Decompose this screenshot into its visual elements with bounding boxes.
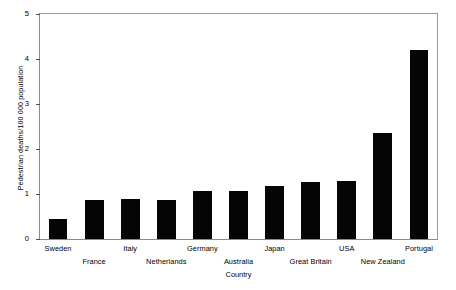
- bar: [373, 133, 392, 239]
- y-axis-tick-label: 4: [25, 55, 29, 63]
- x-axis-tick-label: France: [82, 258, 105, 265]
- plot-inner: 012345: [40, 14, 437, 239]
- y-axis-tick: 5: [36, 14, 40, 15]
- bar: [229, 191, 248, 239]
- x-axis-tick-label: Great Britain: [290, 258, 332, 265]
- bar: [49, 219, 68, 239]
- bar: [410, 50, 429, 239]
- x-axis-tick-label: Netherlands: [146, 258, 186, 265]
- y-axis-tick: 1: [36, 194, 40, 195]
- bar: [85, 200, 104, 239]
- x-axis-tick-label: Australia: [224, 258, 253, 265]
- y-axis-tick-label: 1: [25, 190, 29, 198]
- y-axis-tick: 4: [36, 59, 40, 60]
- x-axis-tick-label: Italy: [123, 245, 137, 252]
- y-axis-tick: 3: [36, 104, 40, 105]
- bar: [157, 200, 176, 239]
- y-axis-tick-label: 3: [25, 100, 29, 108]
- bar: [337, 181, 356, 239]
- x-axis-tick-label: Sweden: [45, 245, 72, 252]
- x-axis-tick-label: Portugal: [405, 245, 433, 252]
- x-axis-tick-label: Japan: [264, 245, 284, 252]
- x-axis-tick-label: New Zealand: [361, 258, 405, 265]
- x-axis-title: Country: [226, 271, 252, 278]
- y-axis-tick: 2: [36, 149, 40, 150]
- y-axis-title: Pedestrian deaths/100 000 population: [14, 13, 28, 243]
- x-axis-tick-label: Germany: [187, 245, 218, 252]
- bar: [265, 186, 284, 239]
- plot-area: 012345: [39, 13, 438, 240]
- y-axis-tick-label: 5: [25, 10, 29, 18]
- x-axis-tick-label: USA: [339, 245, 354, 252]
- y-axis-tick-label: 2: [25, 145, 29, 153]
- bar: [301, 182, 320, 239]
- bar-chart-figure: Pedestrian deaths/100 000 population 012…: [0, 0, 456, 290]
- y-axis-tick-label: 0: [25, 235, 29, 243]
- y-axis-tick: 0: [36, 239, 40, 240]
- bar: [193, 191, 212, 239]
- bar: [121, 199, 140, 239]
